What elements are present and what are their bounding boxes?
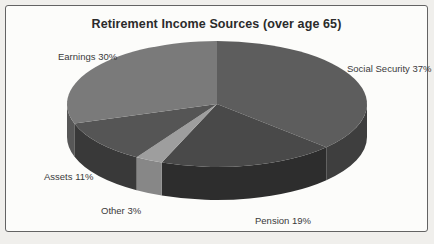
slice-label-pension: Pension 19% (255, 215, 311, 226)
slice-label-assets: Assets 11% (44, 171, 93, 182)
pie-slice-side-other (137, 157, 162, 195)
slice-label-other: Other 3% (101, 205, 141, 216)
pie-chart-3d (0, 0, 434, 244)
slice-label-social-security: Social Security 37% (347, 63, 431, 74)
slice-label-earnings: Earnings 30% (58, 51, 117, 62)
